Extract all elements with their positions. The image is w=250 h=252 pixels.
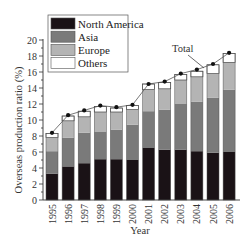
bar-segment-europe bbox=[143, 90, 155, 112]
bar-segment-asia bbox=[191, 102, 203, 152]
bar-1995 bbox=[46, 134, 58, 200]
bar-segment-north-america bbox=[143, 148, 155, 200]
y-tick-label: 20 bbox=[27, 35, 37, 46]
x-axis: 1995199619971998199920002001200220032004… bbox=[43, 200, 240, 224]
total-marker bbox=[66, 113, 70, 117]
bar-segment-asia bbox=[207, 98, 219, 153]
y-axis-label: Overseas production ratio (%) bbox=[13, 66, 25, 193]
bar-segment-europe bbox=[175, 80, 187, 104]
bar-segment-europe bbox=[223, 62, 235, 89]
bar-2003 bbox=[175, 74, 187, 200]
y-axis: 02468101214161820 bbox=[27, 35, 43, 206]
legend-swatch-others bbox=[51, 58, 75, 69]
bar-1997 bbox=[78, 111, 90, 200]
bar-segment-europe bbox=[207, 74, 219, 98]
y-tick-label: 4 bbox=[32, 163, 37, 174]
bar-segment-asia bbox=[223, 90, 235, 152]
bar-segment-asia bbox=[143, 111, 155, 148]
x-tick-label: 1996 bbox=[63, 204, 74, 224]
total-marker bbox=[179, 72, 183, 76]
bar-segment-europe bbox=[46, 138, 58, 152]
bar-segment-europe bbox=[159, 89, 171, 110]
total-marker bbox=[227, 51, 231, 55]
x-tick-label: 1995 bbox=[47, 204, 58, 224]
x-tick-label: 2002 bbox=[159, 204, 170, 224]
legend-label: Asia bbox=[78, 31, 98, 43]
x-tick-label: 2000 bbox=[127, 204, 138, 224]
total-annotation-leader bbox=[188, 55, 204, 68]
bar-segment-others bbox=[207, 65, 219, 74]
total-marker bbox=[195, 68, 199, 72]
bar-segment-north-america bbox=[94, 159, 106, 200]
legend-swatch-north-america bbox=[51, 18, 75, 29]
total-marker bbox=[147, 82, 151, 86]
legend-swatch-asia bbox=[51, 31, 75, 42]
bar-1996 bbox=[62, 116, 74, 200]
y-tick-label: 6 bbox=[32, 147, 37, 158]
x-tick-label: 2006 bbox=[224, 204, 235, 224]
x-tick-label: 1997 bbox=[79, 204, 90, 224]
stacked-bar-chart: 02468101214161820 1995199619971998199920… bbox=[0, 0, 250, 252]
total-marker bbox=[82, 108, 86, 112]
bar-1999 bbox=[110, 108, 122, 200]
total-marker bbox=[98, 104, 102, 108]
bar-segment-asia bbox=[46, 151, 58, 173]
bar-segment-asia bbox=[127, 125, 139, 160]
bar-2001 bbox=[143, 84, 155, 200]
legend-label: Europe bbox=[78, 44, 110, 56]
total-annotation-label: Total bbox=[172, 43, 194, 54]
bar-segment-north-america bbox=[78, 163, 90, 200]
y-tick-label: 8 bbox=[32, 131, 37, 142]
bar-segment-north-america bbox=[110, 159, 122, 200]
bar-1998 bbox=[94, 106, 106, 200]
y-tick-label: 0 bbox=[32, 195, 37, 206]
bar-segment-asia bbox=[159, 110, 171, 150]
bar-segment-europe bbox=[191, 77, 203, 102]
total-marker bbox=[211, 62, 215, 66]
y-tick-label: 12 bbox=[27, 99, 37, 110]
bar-segment-north-america bbox=[62, 166, 74, 200]
bar-segment-north-america bbox=[159, 150, 171, 200]
bar-segment-north-america bbox=[223, 152, 235, 200]
bar-2005 bbox=[207, 65, 219, 200]
bar-segment-north-america bbox=[207, 153, 219, 200]
bar-segment-others bbox=[191, 71, 203, 77]
legend-label: Others bbox=[78, 57, 107, 69]
y-tick-label: 14 bbox=[27, 83, 37, 94]
bar-segment-others bbox=[223, 54, 235, 63]
bars bbox=[46, 54, 235, 200]
legend: North AmericaAsiaEuropeOthers bbox=[48, 15, 144, 72]
x-axis-label: Year bbox=[130, 225, 150, 236]
bar-segment-asia bbox=[110, 130, 122, 160]
bar-segment-north-america bbox=[127, 160, 139, 200]
bar-segment-north-america bbox=[191, 151, 203, 200]
total-marker bbox=[114, 105, 118, 109]
y-tick-label: 18 bbox=[27, 51, 37, 62]
legend-swatch-europe bbox=[51, 44, 75, 55]
bar-segment-north-america bbox=[175, 150, 187, 200]
bar-segment-europe bbox=[62, 121, 74, 138]
total-marker bbox=[130, 103, 134, 107]
bar-segment-europe bbox=[127, 110, 139, 125]
x-tick-label: 1999 bbox=[111, 204, 122, 224]
bar-2004 bbox=[191, 71, 203, 200]
total-annotation: Total bbox=[172, 43, 204, 68]
bar-segment-europe bbox=[110, 112, 122, 130]
bar-segment-europe bbox=[94, 112, 106, 132]
bar-segment-north-america bbox=[46, 174, 58, 200]
y-tick-label: 2 bbox=[32, 179, 37, 190]
legend-label: North America bbox=[78, 18, 144, 30]
bar-segment-asia bbox=[94, 132, 106, 159]
bar-2000 bbox=[127, 106, 139, 200]
x-tick-label: 2005 bbox=[208, 204, 219, 224]
bar-segment-asia bbox=[62, 138, 74, 167]
x-tick-label: 2004 bbox=[191, 204, 202, 224]
bar-segment-europe bbox=[78, 117, 90, 133]
y-tick-label: 16 bbox=[27, 67, 37, 78]
x-tick-label: 2001 bbox=[143, 204, 154, 224]
x-tick-label: 1998 bbox=[95, 204, 106, 224]
bar-2006 bbox=[223, 54, 235, 200]
total-marker bbox=[50, 131, 54, 135]
x-tick-label: 2003 bbox=[175, 204, 186, 224]
y-tick-label: 10 bbox=[27, 115, 37, 126]
